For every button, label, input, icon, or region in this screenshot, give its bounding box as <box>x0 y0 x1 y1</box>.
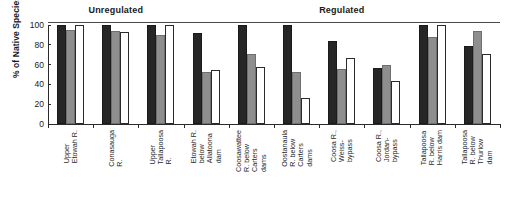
bar-group <box>364 25 409 124</box>
y-tick-label: 100 <box>30 20 48 30</box>
bar <box>346 58 355 124</box>
x-tick-mark <box>184 124 185 128</box>
bar-group <box>455 25 500 124</box>
x-category-label: Coosa R.,Jordan-bypass <box>364 130 409 202</box>
bar-group <box>229 25 274 124</box>
x-category-label-text: OostanaulaR. belowCartersdams <box>280 130 313 167</box>
y-tick-label: 80 <box>35 40 48 50</box>
bar <box>328 41 337 124</box>
bar <box>66 30 75 124</box>
x-category-label-text: TallapoosaR. belowHarris dam <box>420 130 445 165</box>
x-category-label: Coosa R.,Weiss-bypass <box>319 130 364 202</box>
bar <box>464 46 473 124</box>
y-tick-label: 60 <box>35 60 48 70</box>
x-tick-mark <box>93 124 94 128</box>
x-tick-mark <box>274 124 275 128</box>
x-tick-mark <box>410 124 411 128</box>
x-category-label: Etowah R.belowAllatoonadam <box>184 130 229 202</box>
bar <box>337 69 346 124</box>
x-tick-mark <box>500 124 501 128</box>
bar <box>292 72 301 124</box>
bar <box>102 25 111 124</box>
bar-group <box>184 25 229 124</box>
bar-group-bars <box>184 25 229 124</box>
x-category-label: TallapoosaR. belowThurlowdam <box>455 130 500 202</box>
group-header-rule <box>184 22 500 23</box>
bar-group-bars <box>93 25 138 124</box>
bar-group <box>138 25 183 124</box>
bar <box>437 25 446 124</box>
bar <box>419 25 428 124</box>
x-category-label: OostanaulaR. belowCartersdams <box>274 130 319 202</box>
x-category-label: UpperTallapoosaR. <box>138 130 183 202</box>
bar <box>193 33 202 124</box>
bar-chart: % of Native Species 020406080100 UpperEt… <box>0 0 505 204</box>
x-category-label: TallapoosaR. belowHarris dam <box>410 130 455 202</box>
bar <box>211 70 220 124</box>
bar-group-bars <box>319 25 364 124</box>
x-tick-mark <box>138 124 139 128</box>
x-category-label-text: Etowah R.belowAllatoonadam <box>190 130 223 163</box>
x-category-label: UpperEtowah R. <box>48 130 93 202</box>
y-tick-label: 20 <box>35 99 48 109</box>
bar <box>202 72 211 124</box>
x-category-label-text: Coosa R.,Weiss-bypass <box>329 130 354 162</box>
bar <box>382 65 391 124</box>
bar <box>57 25 66 124</box>
x-category-label-text: CoosawatteeR. belowCartersdams <box>235 130 268 172</box>
bar <box>238 25 247 124</box>
plot-area: 020406080100 <box>48 25 500 124</box>
bar <box>111 31 120 124</box>
bar <box>165 25 174 124</box>
x-category-label-text: UpperEtowah R. <box>62 130 78 163</box>
group-header-rule <box>48 22 184 23</box>
y-tick-label: 40 <box>35 79 48 89</box>
bar <box>283 25 292 124</box>
x-tick-mark <box>229 124 230 128</box>
group-header-label: Regulated <box>184 5 500 15</box>
x-category-label-text: TallapoosaR. belowThurlowdam <box>461 130 494 164</box>
x-axis-category-labels: UpperEtowah R.ConasaugaR.UpperTallapoosa… <box>48 130 500 204</box>
bar <box>301 98 310 124</box>
bar-group <box>274 25 319 124</box>
y-axis-title: % of Native Species <box>11 0 21 97</box>
bar <box>482 54 491 124</box>
bar <box>247 54 256 124</box>
bar-group-bars <box>410 25 455 124</box>
x-tick-mark <box>364 124 365 128</box>
bar <box>75 25 84 124</box>
group-header: Regulated <box>184 5 500 25</box>
x-category-label: ConasaugaR. <box>93 130 138 202</box>
bar <box>428 37 437 124</box>
bar-group-bars <box>229 25 274 124</box>
bar-group-bars <box>364 25 409 124</box>
bar <box>147 25 156 124</box>
bar <box>256 67 265 124</box>
bar-group <box>48 25 93 124</box>
bar <box>373 68 382 124</box>
x-category-label: CoosawatteeR. belowCartersdams <box>229 130 274 202</box>
x-tick-mark <box>48 124 49 128</box>
group-header: Unregulated <box>48 5 184 25</box>
bar-group-bars <box>455 25 500 124</box>
bar-group <box>410 25 455 124</box>
bar <box>156 35 165 124</box>
bar-group <box>319 25 364 124</box>
y-tick-label: 0 <box>39 119 48 129</box>
bar-group <box>93 25 138 124</box>
bar <box>120 32 129 124</box>
bar-group-bars <box>48 25 93 124</box>
x-category-label-text: UpperTallapoosaR. <box>149 130 174 164</box>
bar <box>391 81 400 124</box>
bar-group-bars <box>138 25 183 124</box>
x-tick-mark <box>319 124 320 128</box>
bar-group-bars <box>274 25 319 124</box>
x-tick-mark <box>455 124 456 128</box>
x-category-label-text: ConasaugaR. <box>108 130 124 167</box>
x-category-label-text: Coosa R.,Jordan-bypass <box>375 130 400 162</box>
group-header-label: Unregulated <box>48 5 184 15</box>
bar <box>473 31 482 124</box>
